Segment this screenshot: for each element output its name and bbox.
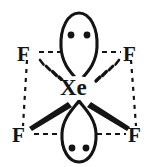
bond-xe-to-fluorine-top-right: [96, 60, 119, 81]
lone-pair-bottom-dot-1: [69, 145, 76, 152]
atom-label-xenon-center: Xe: [60, 76, 87, 99]
atom-label-fluorine-top-left: F: [17, 44, 30, 65]
xef4-structure-figure: F F F F Xe: [0, 0, 159, 167]
outline-edge-left: [23, 60, 27, 126]
outline-edge-right: [131, 60, 136, 126]
lone-pair-top-dot-1: [68, 32, 75, 39]
atom-label-fluorine-top-right: F: [123, 44, 136, 65]
lone-pair-bottom-dot-2: [83, 145, 90, 152]
atom-label-fluorine-bottom-left: F: [12, 125, 25, 146]
lone-pair-top-lobe: [61, 13, 97, 82]
atom-label-fluorine-bottom-right: F: [128, 125, 141, 146]
lone-pair-bottom-lobe: [62, 101, 96, 162]
lone-pair-top-dot-2: [84, 32, 91, 39]
